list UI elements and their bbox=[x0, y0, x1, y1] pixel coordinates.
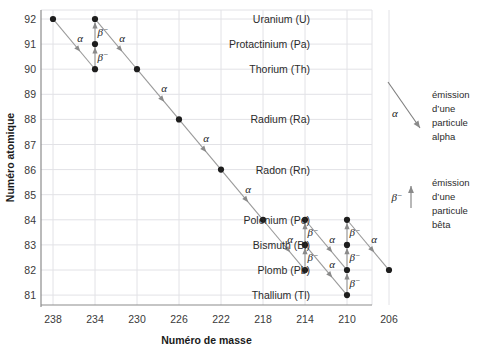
decay-symbol-alpha: α bbox=[371, 233, 377, 245]
y-tick-label: 82 bbox=[24, 264, 36, 276]
decay-symbol-beta: β− bbox=[307, 251, 319, 264]
element-label: Bismuth (Bi) bbox=[253, 239, 310, 251]
x-tick-label: 238 bbox=[44, 313, 62, 325]
x-axis-title-text: Numéro de masse bbox=[161, 334, 252, 346]
decay-symbol-beta: β− bbox=[97, 25, 109, 38]
y-tick-label: 88 bbox=[24, 113, 36, 125]
x-tick-label: 230 bbox=[128, 313, 146, 325]
nuclide-point bbox=[92, 66, 98, 72]
y-axis-title-text: Numéro atomique bbox=[4, 113, 16, 202]
decay-chain-diagram: αβ−β−αααααβ−β−ααβ−β−β−α 9291908988878685… bbox=[0, 0, 483, 352]
element-label: Protactinium (Pa) bbox=[229, 38, 310, 50]
x-tick-label: 210 bbox=[338, 313, 356, 325]
labels-layer: 9291908988878685848382812382342302262222… bbox=[4, 13, 470, 346]
legend-alpha-text-line: particule bbox=[432, 117, 468, 128]
legend-beta-text-line: particule bbox=[432, 205, 468, 216]
x-tick-label: 214 bbox=[296, 313, 314, 325]
arrow-head bbox=[408, 186, 414, 193]
nuclide-point bbox=[92, 16, 98, 22]
element-label: Plomb (Pb) bbox=[257, 264, 310, 276]
legend-alpha-text-line: émission bbox=[432, 89, 470, 100]
x-tick-label: 218 bbox=[254, 313, 272, 325]
nuclide-point bbox=[344, 292, 350, 298]
y-tick-label: 85 bbox=[24, 189, 36, 201]
legend-beta-symbol: β− bbox=[391, 191, 403, 204]
decay-symbol-beta: β− bbox=[97, 50, 109, 63]
x-tick-label: 222 bbox=[212, 313, 230, 325]
chart-svg: αβ−β−αααααβ−β−ααβ−β−β−α 9291908988878685… bbox=[0, 0, 483, 352]
nuclide-point bbox=[344, 217, 350, 223]
y-tick-label: 87 bbox=[24, 139, 36, 151]
y-tick-label: 81 bbox=[24, 289, 36, 301]
element-label: Polonium (Po) bbox=[243, 214, 310, 226]
decay-symbol-alpha: α bbox=[329, 258, 335, 270]
grid-layer bbox=[41, 10, 389, 307]
legend-beta-text-line: d’une bbox=[432, 191, 455, 202]
y-tick-label: 84 bbox=[24, 214, 36, 226]
decay-symbol-alpha: α bbox=[245, 183, 251, 195]
x-tick-label: 226 bbox=[170, 313, 188, 325]
y-tick-label: 90 bbox=[24, 63, 36, 75]
nuclide-point bbox=[134, 66, 140, 72]
decay-symbol-beta: β− bbox=[307, 226, 319, 239]
element-label: Thorium (Th) bbox=[249, 63, 310, 75]
nuclide-point bbox=[50, 16, 56, 22]
legend-alpha-text-line: alpha bbox=[432, 131, 456, 142]
legend-beta-text-line: émission bbox=[432, 177, 470, 188]
legend-alpha-arrow bbox=[388, 82, 420, 128]
decay-symbol-alpha: α bbox=[203, 132, 209, 144]
nuclide-point bbox=[344, 267, 350, 273]
nuclide-point bbox=[386, 267, 392, 273]
element-label: Radon (Rn) bbox=[256, 164, 310, 176]
y-tick-label: 83 bbox=[24, 239, 36, 251]
nuclide-point bbox=[92, 41, 98, 47]
y-tick-label: 89 bbox=[24, 88, 36, 100]
decay-symbol-beta: β− bbox=[349, 226, 361, 239]
element-label: Uranium (U) bbox=[253, 13, 310, 25]
element-label: Thallium (Tl) bbox=[252, 289, 310, 301]
decay-symbol-alpha: α bbox=[329, 233, 335, 245]
x-tick-label: 234 bbox=[86, 313, 104, 325]
nuclide-point bbox=[176, 116, 182, 122]
y-tick-label: 92 bbox=[24, 13, 36, 25]
y-tick-label: 91 bbox=[24, 38, 36, 50]
decay-symbol-alpha: α bbox=[119, 32, 125, 44]
element-label: Radium (Ra) bbox=[250, 113, 310, 125]
legend-alpha-text-line: d’une bbox=[432, 103, 455, 114]
y-tick-label: 86 bbox=[24, 164, 36, 176]
arrow-head bbox=[414, 121, 420, 128]
legend-beta-text-line: bêta bbox=[432, 219, 451, 230]
decay-symbol-alpha: α bbox=[77, 32, 83, 44]
decay-symbol-beta: β− bbox=[349, 251, 361, 264]
x-tick-label: 206 bbox=[380, 313, 398, 325]
decay-symbol-beta: β− bbox=[349, 276, 361, 289]
nuclide-point bbox=[218, 167, 224, 173]
nuclide-point bbox=[344, 242, 350, 248]
legend-alpha-symbol: α bbox=[392, 107, 398, 119]
decay-symbol-alpha: α bbox=[161, 82, 167, 94]
